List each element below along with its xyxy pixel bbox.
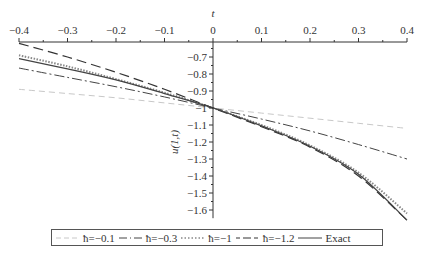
legend-label: ħ=−1.2 (263, 232, 295, 244)
y-ticks: −0.7−0.8−0.9−1−1.1−1.2−1.3−1.4−1.5−1.6 (187, 49, 213, 217)
axes-layer: −0.4−0.3−0.2−0.100.10.20.30.4 −0.7−0.8−0… (9, 7, 414, 218)
legend-label: ħ=−0.1 (83, 232, 115, 244)
legend-swatch-dotted (181, 235, 205, 241)
y-tick-label: −1.6 (187, 204, 207, 216)
y-tick-label: −1.4 (187, 170, 207, 182)
y-tick-label: −0.9 (187, 85, 207, 97)
x-tick-label: 0.4 (400, 24, 414, 36)
x-tick-label: −0.4 (9, 24, 29, 36)
y-tick-label: −1 (195, 102, 207, 114)
legend-item-h-1: ħ=−1 (181, 232, 231, 244)
legend-item-h-0-1: ħ=−0.1 (56, 232, 115, 244)
legend-item-h-1-2: ħ=−1.2 (236, 232, 295, 244)
y-tick-label: −1.3 (187, 153, 207, 165)
legend-swatch-solid (298, 235, 322, 241)
y-tick-label: −0.7 (187, 51, 207, 63)
legend: ħ=−0.1 ħ=−0.3 ħ=−1 ħ=−1.2 Exact (51, 229, 383, 246)
x-tick-label: 0.1 (255, 24, 269, 36)
y-tick-label: −1.2 (187, 136, 207, 148)
legend-label: ħ=−1 (208, 232, 231, 244)
chart: −0.4−0.3−0.2−0.100.10.20.30.4 −0.7−0.8−0… (0, 0, 422, 257)
x-tick-label: −0.1 (155, 24, 175, 36)
legend-label: ħ=−0.3 (146, 232, 178, 244)
y-tick-label: −0.8 (187, 68, 207, 80)
y-axis-title: u(1,t) (168, 130, 181, 154)
legend-item-exact: Exact (298, 232, 350, 244)
x-ticks: −0.4−0.3−0.2−0.100.10.20.30.4 (9, 24, 414, 42)
x-tick-label: 0 (210, 24, 216, 36)
legend-swatch-dashed (56, 235, 80, 241)
x-tick-label: 0.3 (352, 24, 366, 36)
legend-label: Exact (325, 232, 350, 244)
legend-item-h-0-3: ħ=−0.3 (119, 232, 178, 244)
y-tick-label: −1.5 (187, 187, 207, 199)
x-tick-label: −0.3 (58, 24, 78, 36)
x-tick-label: −0.2 (106, 24, 126, 36)
x-axis-title: t (211, 7, 215, 19)
x-tick-label: 0.2 (303, 24, 317, 36)
y-tick-label: −1.1 (187, 119, 207, 131)
legend-swatch-longdash (236, 235, 260, 241)
legend-swatch-dashdot (119, 235, 143, 241)
